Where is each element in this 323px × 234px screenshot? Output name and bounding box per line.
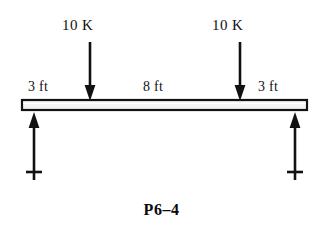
diagram-canvas (0, 0, 323, 234)
dimension-label-middle: 8 ft (143, 80, 163, 94)
dimension-label-right: 3 ft (258, 80, 278, 94)
load-label-left: 10 K (62, 18, 93, 33)
load-arrow-left (85, 42, 96, 101)
reaction-arrow-right (287, 112, 303, 180)
reaction-arrow-right-head (290, 112, 301, 128)
load-arrow-left-head (85, 85, 96, 101)
beam (22, 100, 307, 110)
figure-caption: P6–4 (0, 201, 323, 219)
beam-load-diagram: 10 K 10 K 3 ft 8 ft 3 ft P6–4 (0, 0, 323, 234)
load-arrow-right (235, 42, 246, 101)
reaction-arrow-left-head (29, 112, 40, 128)
load-label-right: 10 K (212, 18, 243, 33)
reaction-arrow-left (26, 112, 42, 180)
dimension-label-left: 3 ft (28, 80, 48, 94)
load-arrow-right-head (235, 85, 246, 101)
